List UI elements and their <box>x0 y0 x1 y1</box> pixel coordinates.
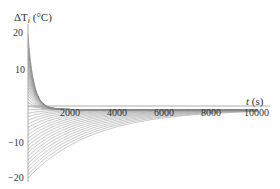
data-curve <box>28 45 258 110</box>
x-tick-2000: 2000 <box>60 108 80 118</box>
y-axis-label: ΔTi (°C) <box>14 12 52 23</box>
y-tick-neg20: −20 <box>8 173 24 183</box>
data-curve <box>28 63 258 110</box>
data-curve <box>28 77 258 109</box>
y-axis-label-sub: i <box>28 16 30 25</box>
data-curve <box>28 41 258 109</box>
y-tick-neg10: −10 <box>8 138 24 148</box>
data-curve <box>28 81 258 110</box>
y-axis-label-main: ΔT <box>14 11 28 23</box>
data-curve <box>28 59 258 109</box>
x-axis-label-unit: (s) <box>252 95 264 107</box>
data-curve <box>28 66 258 109</box>
x-axis-label-main: t <box>246 95 249 107</box>
x-tick-4000: 4000 <box>107 108 127 118</box>
data-curve <box>28 70 258 110</box>
line-chart <box>0 0 280 189</box>
x-tick-6000: 6000 <box>154 108 174 118</box>
x-tick-10000: 10000 <box>244 108 269 118</box>
x-axis-label: t (s) <box>246 96 263 107</box>
data-curve <box>28 111 258 168</box>
data-curve <box>28 112 258 179</box>
data-curve <box>28 38 258 110</box>
y-tick-10: 10 <box>15 65 25 75</box>
x-tick-8000: 8000 <box>201 108 221 118</box>
y-axis-label-unit: (°C) <box>33 11 52 23</box>
data-curve <box>28 56 258 110</box>
data-curve <box>28 52 258 110</box>
data-curve <box>28 48 258 109</box>
data-curve <box>28 74 258 110</box>
data-curve <box>28 34 258 110</box>
y-tick-20: 20 <box>13 28 23 38</box>
